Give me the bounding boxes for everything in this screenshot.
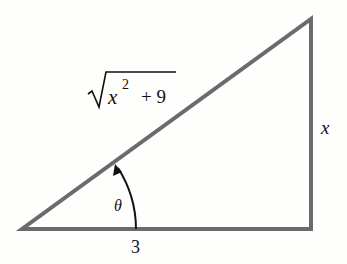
hypotenuse-var: x bbox=[107, 85, 118, 109]
adjacent-label: 3 bbox=[131, 237, 140, 257]
hypotenuse-exponent: 2 bbox=[122, 77, 129, 92]
right-triangle bbox=[22, 19, 311, 229]
hypotenuse-rest: + 9 bbox=[141, 86, 166, 107]
angle-label: θ bbox=[114, 197, 122, 214]
triangle-diagram: x 2 + 9 x 3 θ bbox=[0, 0, 347, 264]
hypotenuse-label: x 2 + 9 bbox=[88, 72, 176, 109]
opposite-label: x bbox=[320, 117, 330, 138]
